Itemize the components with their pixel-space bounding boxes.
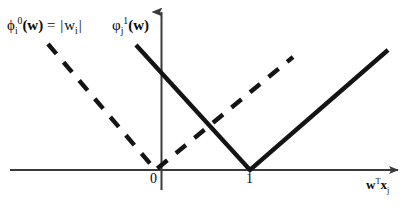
phi-argument: (w) xyxy=(22,17,43,33)
x-tick-label-0: 0 xyxy=(150,172,157,186)
phi-subscript: i xyxy=(15,25,18,36)
dashed-curve-label: ϕi0(w) = |wi| xyxy=(7,18,83,33)
equals-sign: = xyxy=(47,17,55,33)
varphi-symbol: φ xyxy=(112,17,121,33)
figure-container: ϕi0(w) = |wi| φj1(w) wTxj 0 1 xyxy=(0,0,415,210)
abs-variable: w xyxy=(64,17,75,33)
x-axis-label: wTxj xyxy=(366,178,389,191)
xaxis-subscript: j xyxy=(387,186,389,195)
curve-dashed-abs-w xyxy=(48,44,293,170)
varphi-subscript: j xyxy=(121,25,124,36)
phi-symbol: ϕ xyxy=(7,17,15,33)
varphi-argument: (w) xyxy=(128,17,149,33)
x-tick-label-1: 1 xyxy=(246,172,253,186)
abs-bar-close: | xyxy=(78,17,83,33)
xaxis-w: w xyxy=(366,177,375,192)
curve-solid-abs-shifted xyxy=(136,45,388,170)
solid-curve-label: φj1(w) xyxy=(112,18,149,33)
